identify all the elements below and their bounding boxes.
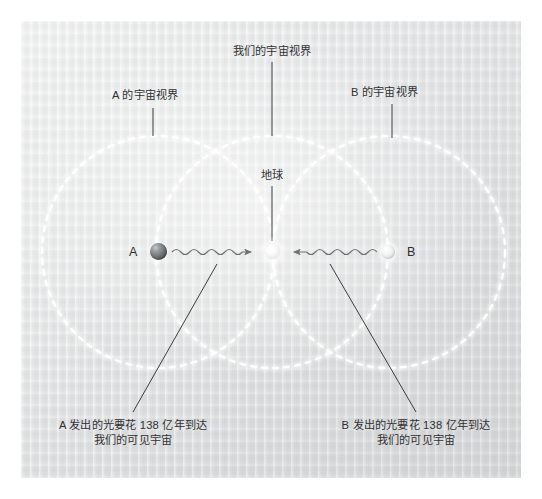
light-ray-b-to-earth [294,250,377,255]
point-b-dot [381,245,395,259]
leader-caption-a [133,264,217,412]
caption-a-line2: 我们的可见宇宙 [39,433,227,448]
caption-b-line2: 我们的可见宇宙 [322,433,510,448]
caption-b: B 发出的光要花 138 亿年到达 我们的可见宇宙 [322,418,510,448]
point-a-dot [150,243,167,260]
light-ray-a-to-earth [172,250,251,255]
label-horizon-a: A 的宇宙视界 [112,88,178,103]
earth-dot [265,244,280,259]
caption-a: A 发出的光要花 138 亿年到达 我们的可见宇宙 [39,418,227,448]
label-point-b: B [407,245,415,259]
label-earth: 地球 [247,168,297,183]
leader-caption-b [330,264,416,412]
caption-b-line1: B 发出的光要花 138 亿年到达 [322,418,510,433]
label-horizon-b: B 的宇宙视界 [351,85,418,100]
figure-canvas: A B A 的宇宙视界 我们的宇宙视界 B 的宇宙视界 地球 A 发出的光要花 … [0,0,542,499]
caption-a-line1: A 发出的光要花 138 亿年到达 [39,418,227,433]
label-horizon-us: 我们的宇宙视界 [222,44,322,59]
label-point-a: A [129,245,137,259]
